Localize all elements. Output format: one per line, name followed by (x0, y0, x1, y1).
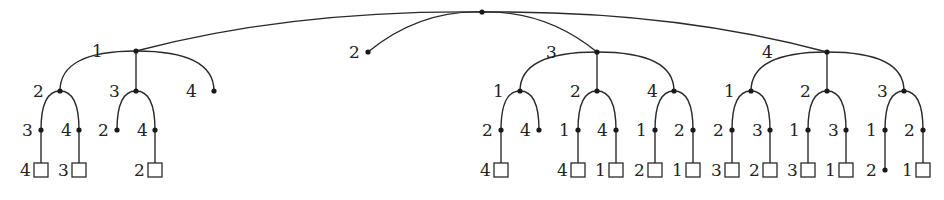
branch-label: 2 (866, 160, 877, 180)
terminal-square-icon (148, 163, 162, 177)
tree-node-dot (133, 48, 138, 53)
tree-node-dot (575, 127, 580, 132)
tree-node-dot (652, 127, 657, 132)
terminal-square-icon (801, 163, 815, 177)
branch-label: 4 (20, 160, 31, 180)
branch-label: 3 (787, 160, 798, 180)
branch-label: 2 (674, 120, 685, 140)
branch-label: 2 (482, 120, 493, 140)
terminal-square-icon (72, 163, 86, 177)
terminal-square-icon (571, 163, 585, 177)
tree-node-dot (920, 127, 925, 132)
branch-label: 2 (349, 42, 360, 62)
branch-label: 3 (109, 81, 120, 101)
tree-edge (808, 91, 827, 130)
tree-node-dot (76, 127, 81, 132)
branch-label: 4 (61, 120, 72, 140)
branch-label: 2 (713, 120, 724, 140)
branch-label: 1 (559, 120, 570, 140)
tree-node-dot (152, 127, 157, 132)
terminal-square-icon (725, 163, 739, 177)
branch-label: 2 (904, 120, 915, 140)
branch-label: 1 (866, 120, 877, 140)
branch-label: 2 (134, 160, 145, 180)
branch-label: 2 (749, 160, 760, 180)
tree-edge (368, 12, 482, 52)
branch-label: 4 (480, 160, 491, 180)
tree-edge (482, 12, 597, 52)
tree-edge (885, 91, 904, 130)
tree-edge (117, 91, 136, 130)
branch-label: 2 (570, 81, 581, 101)
tree-node-dot (57, 88, 62, 93)
branch-label: 3 (22, 120, 33, 140)
tree-node-dot (805, 127, 810, 132)
tree-edges (41, 12, 923, 170)
tree-edge (732, 91, 751, 130)
terminal-square-icon (648, 163, 662, 177)
branch-label: 3 (828, 120, 839, 140)
branch-label: 1 (902, 160, 913, 180)
branch-label: 4 (762, 42, 773, 62)
tree-node-dot (133, 88, 138, 93)
tree-node-dot (517, 88, 522, 93)
branch-label: 3 (711, 160, 722, 180)
tree-node-dot (824, 49, 829, 54)
tree-node-dot (824, 88, 829, 93)
terminal-square-icon (839, 163, 853, 177)
tree-node-dot (882, 127, 887, 132)
branch-label: 3 (877, 81, 888, 101)
terminal-square-icon (494, 163, 508, 177)
tree-edge (501, 91, 520, 130)
tree-edge (597, 52, 674, 91)
tree-node-dot (748, 88, 753, 93)
tree-node-dot (690, 127, 695, 132)
branch-label: 2 (98, 120, 109, 140)
branch-label: 1 (789, 120, 800, 140)
tree-node-dot (901, 88, 906, 93)
branch-label: 1 (92, 41, 103, 61)
tree-edge (136, 51, 214, 91)
terminal-square-icon (609, 163, 623, 177)
branch-label: 1 (724, 81, 735, 101)
tree-node-dot (594, 88, 599, 93)
branch-label: 1 (493, 81, 504, 101)
branch-label: 1 (595, 160, 606, 180)
branch-label: 1 (636, 120, 647, 140)
tree-node-dot (365, 49, 370, 54)
terminal-square-icon (763, 163, 777, 177)
tree-canvas: 1234433242423124421441412214123322133131… (0, 0, 944, 200)
tree-node-dot (729, 127, 734, 132)
branch-label: 3 (58, 160, 69, 180)
branch-label: 2 (634, 160, 645, 180)
branch-label: 3 (546, 42, 557, 62)
tree-node-dot (536, 127, 541, 132)
branch-label: 3 (752, 120, 763, 140)
branch-label: 2 (800, 81, 811, 101)
terminal-square-icon (916, 163, 930, 177)
branch-label: 4 (557, 160, 568, 180)
branch-label: 4 (137, 120, 148, 140)
tree-node-dot (613, 127, 618, 132)
tree-node-dot (211, 88, 216, 93)
game-tree-diagram: 1234433242423124421441412214123322133131… (0, 0, 944, 200)
branch-label: 2 (33, 81, 44, 101)
tree-node-dot (114, 127, 119, 132)
tree-node-dot (38, 127, 43, 132)
tree-node-dot (882, 167, 887, 172)
tree-edge (41, 91, 60, 130)
branch-label: 4 (186, 81, 197, 101)
tree-nodes (34, 9, 930, 177)
branch-label: 4 (520, 120, 531, 140)
terminal-square-icon (34, 163, 48, 177)
branch-label: 4 (597, 120, 608, 140)
tree-edge (827, 52, 904, 91)
branch-labels: 1234433242423124421441412214123322133131… (20, 41, 915, 180)
tree-node-dot (671, 88, 676, 93)
tree-node-dot (498, 127, 503, 132)
branch-label: 1 (825, 160, 836, 180)
tree-node-dot (767, 127, 772, 132)
root-node (479, 9, 484, 14)
tree-node-dot (843, 127, 848, 132)
tree-edge (578, 91, 597, 130)
